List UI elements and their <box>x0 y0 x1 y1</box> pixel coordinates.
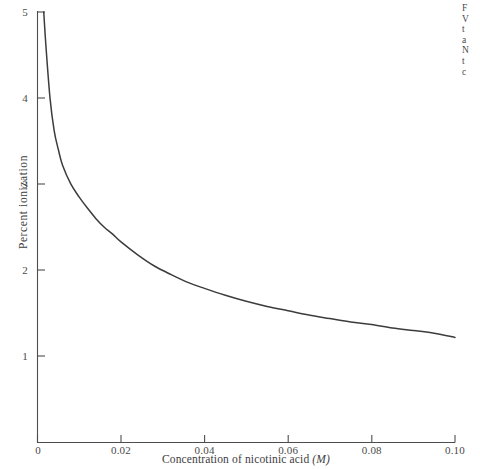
y-tick-label-5: 5 <box>12 6 28 18</box>
y-axis-ticks <box>38 12 46 356</box>
x-axis-title-text: Concentration of nicotinic acid <box>162 453 309 465</box>
figure-caption: F V t a N t c <box>462 3 480 77</box>
figure-container: 5 4 3 2 1 0 0.02 0.04 0.06 0.08 0.10 Con… <box>0 0 480 469</box>
caption-line-1: F <box>462 3 480 14</box>
data-curve <box>44 12 455 337</box>
caption-line-3: t <box>462 24 480 35</box>
caption-line-6: t <box>462 56 480 67</box>
caption-line-2: V <box>462 14 480 25</box>
y-tick-label-1: 1 <box>12 350 28 362</box>
caption-line-4: a <box>462 35 480 46</box>
y-axis-title: Percent ionization <box>17 127 29 277</box>
caption-line-7: c <box>462 67 480 78</box>
x-axis-title: Concentration of nicotinic acid (M) <box>37 453 455 465</box>
chart-canvas <box>0 0 480 469</box>
caption-line-5: N <box>462 45 480 56</box>
y-tick-label-4: 4 <box>12 92 28 104</box>
x-axis-ticks <box>38 435 456 443</box>
x-axis-unit: (M) <box>312 453 330 465</box>
